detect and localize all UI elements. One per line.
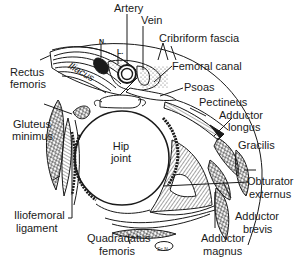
label-psoas: Psoas	[184, 81, 215, 93]
label-iliofemoral-ligament-2: ligament	[16, 222, 58, 234]
label-pectineus: Pectineus	[199, 96, 247, 108]
label-gluteus-minimus-2: minimus	[12, 130, 53, 142]
label-adductor-longus-2: longus	[228, 121, 260, 133]
label-hip-joint-2: joint	[106, 152, 136, 164]
gracilis-muscle	[235, 150, 248, 196]
label-hip-joint-1: Hip	[106, 140, 136, 152]
label-quadradatus-femoris-1: Quadradatus	[87, 232, 151, 244]
label-rectus-femoris-2: femoris	[10, 78, 46, 90]
label-iliofemoral-ligament-1: Iliofemoral	[14, 209, 65, 221]
gluteus-minimus-muscle	[46, 100, 63, 190]
label-sciatic-nerve: Sc.N.	[157, 243, 169, 255]
label-obturator-externus-2: externus	[249, 188, 291, 200]
label-vein: Vein	[141, 14, 162, 26]
label-obturator-externus-1: Obturator	[247, 175, 293, 187]
acetabular-labrum	[100, 95, 141, 108]
label-adductor-brevis-2: brevis	[243, 223, 272, 235]
label-adductor-magnus-2: magnus	[203, 245, 242, 257]
label-femoral-canal: Femoral canal	[172, 60, 242, 72]
label-gluteus-minimus-1: Gluteus	[13, 118, 51, 130]
label-artery: Artery	[114, 2, 143, 14]
label-cribriform-fascia: Cribriform fascia	[159, 32, 239, 44]
label-lymphatic: L.	[117, 46, 123, 58]
rectus-femoris-muscle	[73, 106, 90, 119]
label-gracilis: Gracilis	[238, 139, 275, 151]
label-quadradatus-femoris-2: femoris	[99, 245, 135, 257]
label-adductor-longus-1: Adductor	[219, 109, 263, 121]
label-adductor-magnus-1: Adductor	[201, 232, 245, 244]
label-rectus-femoris-1: Rectus	[10, 66, 44, 78]
label-adductor-brevis-1: Adductor	[235, 210, 279, 222]
label-nerve: N.	[99, 36, 106, 48]
